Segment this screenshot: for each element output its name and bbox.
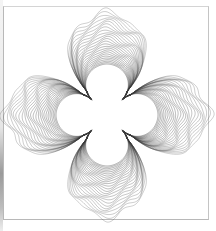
contour-artwork (0, 0, 216, 231)
contour-line (36, 44, 178, 186)
contour-line (31, 39, 184, 192)
contour-line (4, 12, 211, 219)
contour-line (53, 61, 161, 169)
contour-line (11, 19, 202, 210)
contour-line (10, 18, 204, 212)
contour-line (33, 41, 181, 189)
contour-line (25, 33, 189, 197)
contour-line (55, 63, 160, 168)
contour-line (38, 46, 175, 183)
contour-line (44, 52, 170, 178)
contour-line (46, 54, 168, 176)
contour-line (50, 58, 164, 172)
contour-line (27, 35, 188, 196)
contour-line (7, 15, 206, 214)
contour-line (22, 30, 192, 200)
contour-line (42, 50, 172, 180)
contour-line (52, 60, 163, 171)
contour-line (13, 21, 201, 209)
contour-line (48, 56, 166, 174)
contour-line (56, 64, 158, 166)
contour-line (28, 36, 185, 193)
contour-line (40, 48, 174, 182)
contour-line (16, 24, 199, 207)
contour-line (0, 8, 214, 222)
contour-line (19, 27, 195, 203)
